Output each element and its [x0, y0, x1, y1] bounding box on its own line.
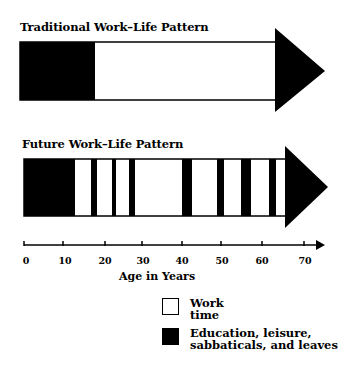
axis-label: Age in Years	[119, 270, 195, 283]
traditional-education-segment	[20, 42, 95, 100]
future-stripe	[269, 159, 276, 216]
tick-label: 20	[98, 255, 111, 266]
future-arrowhead-icon	[285, 146, 328, 228]
legend-work-label: Work time	[190, 297, 224, 321]
tick-label: 70	[298, 255, 311, 266]
traditional-pattern-bar	[20, 28, 325, 112]
future-stripe	[241, 159, 251, 216]
future-stripe	[91, 159, 97, 216]
tick-label: 10	[58, 255, 71, 266]
future-stripe	[112, 159, 116, 216]
tick-label: 30	[136, 255, 149, 266]
legend-leisure-swatch	[162, 328, 179, 345]
legend-work-swatch	[162, 298, 179, 315]
tick-label: 60	[255, 255, 268, 266]
diagram-graphics	[0, 0, 342, 377]
tick-label: 50	[215, 255, 228, 266]
axis-arrow-icon	[316, 240, 325, 250]
future-stripe	[129, 159, 135, 216]
age-axis	[24, 240, 325, 250]
future-stripe	[182, 159, 192, 216]
tick-label: 0	[23, 255, 30, 266]
future-stripe	[217, 159, 224, 216]
future-pattern-title: Future Work–Life Pattern	[22, 137, 183, 151]
future-stripe	[24, 159, 75, 216]
future-pattern-bar	[24, 146, 328, 228]
traditional-arrowhead-icon	[275, 28, 325, 112]
tick-label: 40	[175, 255, 188, 266]
legend-leisure-label: Education, leisure, sabbaticals, and lea…	[190, 327, 338, 351]
